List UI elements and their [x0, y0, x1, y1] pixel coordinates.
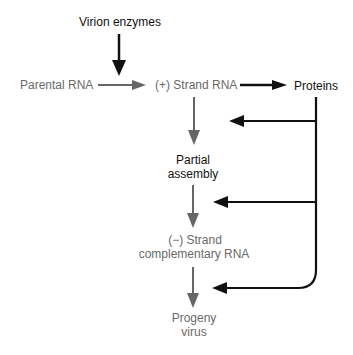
arrow-parental-to-plus-strand	[98, 80, 146, 90]
arrow-partial-assembly-to-minus-strand	[187, 185, 199, 228]
node-partial-assembly-line1: Partial	[176, 153, 210, 168]
arrow-plus-strand-to-proteins	[240, 80, 287, 90]
node-progeny-line2: virus	[181, 325, 206, 340]
node-parental-rna: Parental RNA	[20, 78, 93, 93]
node-plus-strand-rna: (+) Strand RNA	[155, 78, 237, 93]
node-proteins: Proteins	[294, 79, 338, 94]
arrow-plus-strand-to-partial-assembly	[188, 97, 200, 145]
proteins-feedback-line	[212, 97, 316, 294]
node-minus-strand-line1: (−) Strand	[168, 233, 222, 248]
arrow-virion-enzymes-down	[112, 34, 126, 76]
node-partial-assembly-line2: assembly	[168, 167, 219, 182]
node-virion-enzymes: Virion enzymes	[79, 15, 161, 30]
node-minus-strand-line2: complementary RNA	[139, 247, 250, 262]
arrow-minus-strand-to-progeny	[187, 267, 199, 308]
node-progeny-line1: Progeny	[172, 311, 217, 326]
